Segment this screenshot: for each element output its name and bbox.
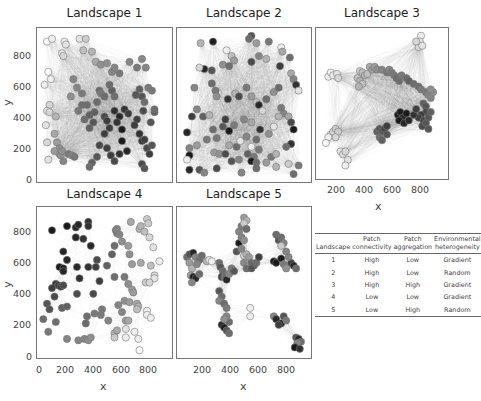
patch-node bbox=[186, 166, 193, 173]
patch-node bbox=[138, 55, 145, 62]
cell: 3 bbox=[315, 279, 351, 291]
patch-node bbox=[273, 150, 280, 157]
patch-node bbox=[243, 84, 250, 91]
patch-node bbox=[243, 225, 250, 232]
patch-node bbox=[133, 64, 140, 71]
cell: Random bbox=[433, 304, 481, 317]
patch-node bbox=[247, 313, 254, 320]
patch-node bbox=[76, 275, 83, 282]
patch-node bbox=[103, 262, 110, 269]
patch-node bbox=[147, 262, 154, 269]
patch-node bbox=[135, 335, 142, 342]
patch-node bbox=[80, 47, 87, 54]
patch-node bbox=[141, 228, 148, 235]
patch-node bbox=[41, 81, 48, 88]
patch-node bbox=[73, 263, 80, 270]
patch-node bbox=[125, 110, 132, 117]
patch-node bbox=[141, 136, 148, 143]
patch-node bbox=[197, 40, 204, 47]
edges bbox=[326, 36, 433, 166]
patch-node bbox=[253, 40, 260, 47]
patch-node bbox=[263, 96, 270, 103]
header-patch-aggregation: Patch aggregation bbox=[392, 234, 433, 254]
patch-node bbox=[213, 93, 220, 100]
patch-node bbox=[223, 47, 230, 54]
patch-node bbox=[275, 113, 282, 120]
patch-node bbox=[196, 270, 203, 277]
patch-node bbox=[183, 156, 190, 163]
patch-node bbox=[60, 52, 67, 59]
x-axis-label-landscape-3: x bbox=[375, 200, 382, 213]
patch-node bbox=[188, 113, 195, 120]
x-tick-800: 800 bbox=[411, 184, 429, 195]
y-axis-label-top: y bbox=[1, 99, 14, 106]
patch-node bbox=[70, 76, 77, 83]
patch-node bbox=[111, 158, 118, 165]
patch-node bbox=[90, 119, 97, 126]
x-tick-800: 800 bbox=[277, 364, 295, 375]
table-row: 2 High Low Random bbox=[315, 266, 481, 278]
patch-node bbox=[96, 142, 103, 149]
patch-node bbox=[111, 93, 118, 100]
patch-node bbox=[342, 148, 349, 155]
table-row: 1 High Low Gradient bbox=[315, 254, 481, 267]
patch-node bbox=[283, 143, 290, 150]
patch-node bbox=[71, 153, 78, 160]
patch-node bbox=[90, 290, 97, 297]
patch-node bbox=[285, 160, 292, 167]
patch-node bbox=[103, 60, 110, 67]
patch-node bbox=[130, 289, 137, 296]
patch-node bbox=[62, 41, 69, 48]
cell: High bbox=[392, 279, 433, 291]
cell: Low bbox=[351, 291, 392, 303]
table-row: 4 Low Low Gradient bbox=[315, 291, 481, 303]
patch-node bbox=[248, 119, 255, 126]
patch-node bbox=[335, 75, 342, 82]
cell: High bbox=[351, 266, 392, 278]
y-tick-600: 600 bbox=[13, 257, 31, 268]
patch-node bbox=[118, 238, 125, 245]
patch-node bbox=[111, 107, 118, 114]
patch-node bbox=[265, 130, 272, 137]
x-tick-600: 600 bbox=[249, 364, 267, 375]
patch-node bbox=[355, 83, 362, 90]
patch-node bbox=[273, 163, 280, 170]
patch-node bbox=[118, 137, 125, 144]
network-plot bbox=[177, 28, 311, 182]
patch-node bbox=[293, 265, 300, 272]
y-tick-200: 200 bbox=[13, 143, 31, 154]
patch-node bbox=[275, 321, 282, 328]
patch-node bbox=[209, 38, 216, 45]
patch-node bbox=[206, 112, 213, 119]
patch-node bbox=[88, 48, 95, 55]
patch-node bbox=[213, 135, 220, 142]
patch-node bbox=[51, 130, 58, 137]
patch-node bbox=[48, 227, 55, 234]
patch-node bbox=[275, 84, 282, 91]
network-plot bbox=[177, 207, 311, 358]
patch-node bbox=[87, 334, 94, 341]
patch-node bbox=[113, 119, 120, 126]
patch-node bbox=[223, 304, 230, 311]
patch-node bbox=[263, 55, 270, 62]
patch-node bbox=[263, 159, 270, 166]
patch-node bbox=[209, 126, 216, 133]
patch-node bbox=[219, 123, 226, 130]
patch-node bbox=[147, 314, 154, 321]
cell: Low bbox=[351, 304, 392, 317]
patch-node bbox=[45, 68, 52, 75]
x-tick-400: 400 bbox=[84, 364, 102, 375]
patch-node bbox=[425, 125, 432, 132]
patch-node bbox=[48, 285, 55, 292]
cell: Low bbox=[392, 254, 433, 267]
header-environmental-heterogeneity: Environmental heterogeneity bbox=[433, 234, 481, 254]
patch-node bbox=[295, 87, 302, 94]
patch-node bbox=[255, 146, 262, 153]
landscape-summary-table: Landscape Patch connectivity Patch aggre… bbox=[315, 233, 481, 317]
patch-node bbox=[52, 318, 59, 325]
cell: Gradient bbox=[433, 254, 481, 267]
patch-node bbox=[60, 282, 67, 289]
patch-node bbox=[146, 234, 153, 241]
patch-node bbox=[150, 244, 157, 251]
patch-node bbox=[243, 133, 250, 140]
